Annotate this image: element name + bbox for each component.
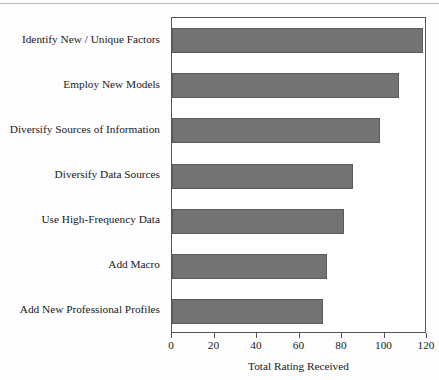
tick-mark <box>426 333 427 338</box>
category-label: Add Macro <box>108 258 160 271</box>
category-label: Add New Professional Profiles <box>20 303 160 316</box>
category-label: Diversify Data Sources <box>55 168 160 181</box>
tick-label: 20 <box>208 339 219 351</box>
x-axis-title: Total Rating Received <box>171 360 426 372</box>
tick-mark <box>299 333 300 338</box>
x-axis-tick-labels: 020406080100120 <box>171 339 426 355</box>
bar <box>172 209 344 234</box>
tick-mark <box>384 333 385 338</box>
bar <box>172 254 327 279</box>
bar <box>172 73 399 98</box>
tick-label: 60 <box>293 339 304 351</box>
bar <box>172 299 323 324</box>
bar <box>172 118 380 143</box>
bar-chart-figure: Identify New / Unique FactorsEmploy New … <box>0 0 439 380</box>
tick-label: 100 <box>375 339 392 351</box>
bar <box>172 164 353 189</box>
category-label: Use High-Frequency Data <box>41 213 160 226</box>
category-label: Employ New Models <box>63 78 160 91</box>
page-top-rule <box>0 3 439 4</box>
tick-mark <box>341 333 342 338</box>
category-label: Identify New / Unique Factors <box>22 33 160 46</box>
tick-label: 40 <box>250 339 261 351</box>
tick-label: 120 <box>418 339 435 351</box>
category-label: Diversify Sources of Information <box>10 123 160 136</box>
tick-mark <box>214 333 215 338</box>
tick-mark <box>256 333 257 338</box>
tick-mark <box>171 333 172 338</box>
bars-layer <box>172 18 425 332</box>
tick-label: 80 <box>335 339 346 351</box>
plot-area <box>171 17 426 333</box>
tick-label: 0 <box>168 339 174 351</box>
category-axis-labels: Identify New / Unique FactorsEmploy New … <box>0 17 166 333</box>
bar <box>172 28 423 53</box>
